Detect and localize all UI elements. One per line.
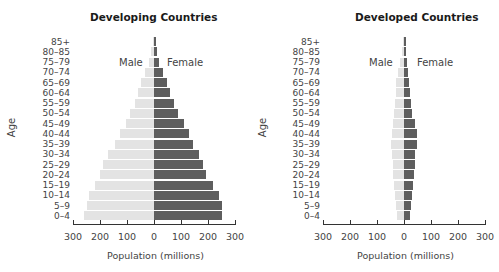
male-bar — [394, 181, 404, 190]
male-bar — [130, 109, 154, 118]
male-bar — [391, 140, 404, 149]
x-tick-label: 300 — [470, 231, 499, 242]
male-bar — [393, 170, 404, 179]
age-tick-label: 40–44 — [30, 129, 70, 139]
male-bar — [396, 88, 404, 97]
x-tick-label: 200 — [335, 231, 365, 242]
female-bar — [154, 47, 157, 56]
x-tick-label: 100 — [112, 231, 142, 242]
male-bar — [396, 201, 404, 210]
male-bar — [392, 129, 404, 138]
age-tick-label: 15–19 — [280, 180, 320, 190]
age-tick-label: 50–54 — [30, 108, 70, 118]
male-bar — [138, 88, 154, 97]
female-bar — [404, 68, 408, 77]
age-tick-label: 15–19 — [30, 180, 70, 190]
x-tick-label: 200 — [85, 231, 115, 242]
male-bar — [395, 191, 404, 200]
female-bar — [404, 58, 407, 67]
x-tick — [100, 220, 101, 225]
age-tick-label: 25–29 — [30, 160, 70, 170]
x-tick — [431, 220, 432, 225]
female-bar — [154, 129, 189, 138]
female-bar — [154, 37, 156, 46]
female-bar — [404, 181, 413, 190]
age-tick-label: 35–39 — [30, 139, 70, 149]
age-tick-label: 30–34 — [280, 149, 320, 159]
female-bar — [154, 181, 213, 190]
age-tick-label: 55–59 — [30, 98, 70, 108]
female-bar — [154, 191, 219, 200]
developing-countries-pyramid: Developing Countries Age Male Female 85+… — [0, 0, 250, 272]
female-bar — [154, 68, 163, 77]
male-bar — [126, 119, 154, 128]
female-bar — [154, 58, 159, 67]
male-bar — [393, 119, 404, 128]
female-bar — [154, 88, 170, 97]
chart-title: Developing Countries — [90, 11, 217, 23]
male-label: Male — [369, 57, 393, 68]
female-bar — [154, 211, 222, 220]
male-bar — [397, 211, 404, 220]
x-tick — [235, 220, 236, 225]
male-bar — [108, 150, 154, 159]
female-bar — [404, 140, 417, 149]
age-tick-label: 25–29 — [280, 160, 320, 170]
male-bar — [145, 68, 154, 77]
female-label: Female — [417, 57, 453, 68]
female-bar — [404, 170, 414, 179]
age-tick-label: 0–4 — [30, 211, 70, 221]
age-tick-label: 85+ — [30, 37, 70, 47]
x-tick — [73, 220, 74, 225]
x-tick-label: 200 — [443, 231, 473, 242]
x-tick-label: 200 — [193, 231, 223, 242]
male-bar — [95, 181, 154, 190]
male-bar — [135, 99, 154, 108]
age-tick-label: 80–85 — [30, 47, 70, 57]
x-tick-label: 100 — [362, 231, 392, 242]
x-tick-label: 300 — [308, 231, 338, 242]
age-tick-label: 0–4 — [280, 211, 320, 221]
x-axis-label: Population (millions) — [357, 250, 454, 261]
male-bar — [120, 129, 154, 138]
x-tick — [485, 220, 486, 225]
age-tick-label: 75–79 — [280, 57, 320, 67]
x-tick — [154, 220, 155, 225]
age-tick-label: 20–24 — [280, 170, 320, 180]
male-bar — [84, 211, 154, 220]
age-tick-label: 45–49 — [30, 119, 70, 129]
male-bar — [115, 140, 154, 149]
age-tick-label: 70–74 — [30, 67, 70, 77]
age-tick-label: 65–69 — [30, 78, 70, 88]
male-bar — [89, 191, 154, 200]
age-tick-label: 70–74 — [280, 67, 320, 77]
female-bar — [154, 170, 206, 179]
female-bar — [404, 109, 412, 118]
x-tick — [350, 220, 351, 225]
age-tick-label: 20–24 — [30, 170, 70, 180]
female-bar — [154, 160, 203, 169]
age-tick-label: 80–85 — [280, 47, 320, 57]
age-tick-label: 50–54 — [280, 108, 320, 118]
y-axis-label: Age — [257, 118, 268, 137]
age-tick-label: 30–34 — [30, 149, 70, 159]
female-bar — [404, 47, 406, 56]
female-bar — [154, 150, 199, 159]
x-tick-label: 0 — [389, 231, 419, 242]
female-bar — [404, 88, 410, 97]
female-bar — [404, 78, 409, 87]
female-bar — [404, 160, 415, 169]
female-bar — [154, 78, 167, 87]
x-tick — [377, 220, 378, 225]
age-tick-label: 85+ — [280, 37, 320, 47]
age-tick-label: 60–64 — [280, 88, 320, 98]
age-tick-label: 35–39 — [280, 139, 320, 149]
male-bar — [392, 150, 404, 159]
y-axis-label: Age — [6, 118, 17, 137]
female-bar — [154, 99, 174, 108]
female-bar — [404, 129, 417, 138]
age-tick-label: 65–69 — [280, 78, 320, 88]
female-bar — [154, 140, 193, 149]
chart-title: Developed Countries — [355, 11, 478, 23]
x-tick — [404, 220, 405, 225]
